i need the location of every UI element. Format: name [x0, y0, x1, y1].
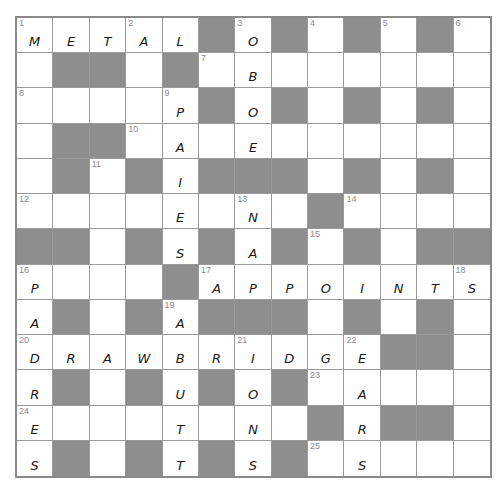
- grid-cell[interactable]: [126, 53, 162, 88]
- grid-cell[interactable]: R: [199, 335, 235, 370]
- grid-cell[interactable]: W: [126, 335, 162, 370]
- grid-cell[interactable]: [90, 441, 126, 476]
- grid-cell[interactable]: [308, 300, 344, 335]
- grid-cell[interactable]: [417, 53, 453, 88]
- grid-cell[interactable]: R: [344, 406, 380, 441]
- grid-cell[interactable]: R: [53, 335, 89, 370]
- grid-cell[interactable]: [417, 370, 453, 405]
- grid-cell[interactable]: [53, 88, 89, 123]
- grid-cell[interactable]: [272, 194, 308, 229]
- grid-cell[interactable]: [17, 53, 53, 88]
- grid-cell[interactable]: 7: [199, 53, 235, 88]
- grid-cell[interactable]: P: [272, 265, 308, 300]
- grid-cell[interactable]: R: [17, 370, 53, 405]
- grid-cell[interactable]: [454, 406, 490, 441]
- grid-cell[interactable]: [199, 406, 235, 441]
- grid-cell[interactable]: [199, 124, 235, 159]
- grid-cell[interactable]: [308, 159, 344, 194]
- grid-cell[interactable]: I: [163, 159, 199, 194]
- grid-cell[interactable]: [90, 88, 126, 123]
- grid-cell[interactable]: [53, 194, 89, 229]
- grid-cell[interactable]: [272, 406, 308, 441]
- grid-cell[interactable]: [90, 229, 126, 264]
- grid-cell[interactable]: 2A: [126, 18, 162, 53]
- grid-cell[interactable]: [381, 88, 417, 123]
- grid-cell[interactable]: O: [235, 370, 271, 405]
- grid-cell[interactable]: P: [235, 265, 271, 300]
- grid-cell[interactable]: 8: [17, 88, 53, 123]
- grid-cell[interactable]: 23: [308, 370, 344, 405]
- grid-cell[interactable]: [199, 194, 235, 229]
- grid-cell[interactable]: [126, 194, 162, 229]
- grid-cell[interactable]: [381, 300, 417, 335]
- grid-cell[interactable]: [90, 194, 126, 229]
- grid-cell[interactable]: [90, 406, 126, 441]
- grid-cell[interactable]: 20D: [17, 335, 53, 370]
- grid-cell[interactable]: 11: [90, 159, 126, 194]
- grid-cell[interactable]: I: [344, 265, 380, 300]
- grid-cell[interactable]: 12: [17, 194, 53, 229]
- grid-cell[interactable]: G: [308, 335, 344, 370]
- grid-cell[interactable]: [17, 124, 53, 159]
- grid-cell[interactable]: 10: [126, 124, 162, 159]
- grid-cell[interactable]: S: [17, 441, 53, 476]
- grid-cell[interactable]: A: [344, 370, 380, 405]
- grid-cell[interactable]: N: [235, 406, 271, 441]
- grid-cell[interactable]: [381, 194, 417, 229]
- grid-cell[interactable]: [454, 53, 490, 88]
- grid-cell[interactable]: [417, 441, 453, 476]
- grid-cell[interactable]: L: [163, 18, 199, 53]
- grid-cell[interactable]: U: [163, 370, 199, 405]
- grid-cell[interactable]: 22E: [344, 335, 380, 370]
- grid-cell[interactable]: [454, 124, 490, 159]
- grid-cell[interactable]: E: [53, 18, 89, 53]
- grid-cell[interactable]: 21I: [235, 335, 271, 370]
- grid-cell[interactable]: S: [344, 441, 380, 476]
- grid-cell[interactable]: 1M: [17, 18, 53, 53]
- grid-cell[interactable]: [454, 159, 490, 194]
- grid-cell[interactable]: 9P: [163, 88, 199, 123]
- grid-cell[interactable]: [381, 124, 417, 159]
- grid-cell[interactable]: 6: [454, 18, 490, 53]
- grid-cell[interactable]: [272, 124, 308, 159]
- grid-cell[interactable]: [417, 194, 453, 229]
- grid-cell[interactable]: E: [235, 124, 271, 159]
- grid-cell[interactable]: [90, 370, 126, 405]
- grid-cell[interactable]: 13N: [235, 194, 271, 229]
- grid-cell[interactable]: O: [308, 265, 344, 300]
- grid-cell[interactable]: [308, 53, 344, 88]
- grid-cell[interactable]: T: [417, 265, 453, 300]
- grid-cell[interactable]: [454, 300, 490, 335]
- grid-cell[interactable]: 18S: [454, 265, 490, 300]
- grid-cell[interactable]: [308, 124, 344, 159]
- grid-cell[interactable]: B: [163, 335, 199, 370]
- grid-cell[interactable]: 24E: [17, 406, 53, 441]
- grid-cell[interactable]: 4: [308, 18, 344, 53]
- grid-cell[interactable]: S: [235, 441, 271, 476]
- grid-cell[interactable]: 16P: [17, 265, 53, 300]
- grid-cell[interactable]: O: [235, 88, 271, 123]
- grid-cell[interactable]: A: [90, 335, 126, 370]
- grid-cell[interactable]: [454, 194, 490, 229]
- grid-cell[interactable]: [381, 159, 417, 194]
- grid-cell[interactable]: D: [272, 335, 308, 370]
- grid-cell[interactable]: [381, 370, 417, 405]
- grid-cell[interactable]: A: [17, 300, 53, 335]
- grid-cell[interactable]: 25: [308, 441, 344, 476]
- grid-cell[interactable]: T: [163, 406, 199, 441]
- grid-cell[interactable]: [126, 406, 162, 441]
- grid-cell[interactable]: [454, 441, 490, 476]
- grid-cell[interactable]: [17, 159, 53, 194]
- grid-cell[interactable]: [90, 300, 126, 335]
- grid-cell[interactable]: [344, 124, 380, 159]
- grid-cell[interactable]: [53, 265, 89, 300]
- grid-cell[interactable]: [308, 88, 344, 123]
- grid-cell[interactable]: [126, 265, 162, 300]
- grid-cell[interactable]: [454, 335, 490, 370]
- grid-cell[interactable]: 19A: [163, 300, 199, 335]
- grid-cell[interactable]: 14: [344, 194, 380, 229]
- grid-cell[interactable]: [454, 370, 490, 405]
- grid-cell[interactable]: [381, 229, 417, 264]
- grid-cell[interactable]: 3O: [235, 18, 271, 53]
- grid-cell[interactable]: [90, 265, 126, 300]
